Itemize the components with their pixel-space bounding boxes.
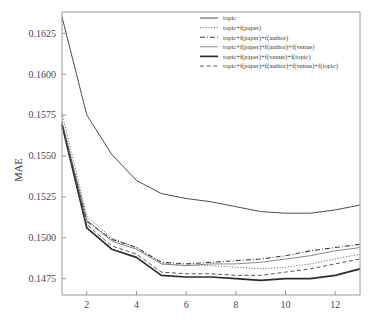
y-axis-title: MAE [13,158,24,181]
y-tick-label: 0.1550 [29,150,57,161]
x-tick-label: 8 [233,299,238,310]
x-tick-label: 4 [134,299,139,310]
chart-figure: 0.14750.15000.15250.15500.15750.16000.16… [0,0,373,324]
legend-label-2: topic+f(paper) [223,24,261,32]
x-tick-label: 10 [281,299,291,310]
x-tick-label: 2 [84,299,89,310]
y-tick-label: 0.1625 [29,28,57,39]
y-tick-label: 0.1475 [29,273,57,284]
x-tick-label: 6 [184,299,189,310]
x-tick-label: 12 [330,299,340,310]
mae-line-chart: 0.14750.15000.15250.15500.15750.16000.16… [0,0,373,324]
y-tick-label: 0.1525 [29,191,57,202]
legend-label-5: topic+f(paper)+f(venue)+f(topic) [223,53,311,61]
clipped-caption-strip [0,315,373,324]
legend-label-6: topic+f(paper)+f(author)+f(venue)+f(topi… [223,62,338,70]
legend-label-4: topic+f(paper)+f(author)+f(venue) [223,43,314,51]
y-tick-label: 0.1500 [29,232,57,243]
legend-label-3: topic+f(paper)+f(author) [223,34,288,42]
series-line-5 [62,125,360,280]
y-tick-label: 0.1600 [29,69,57,80]
legend-label-1: topic [223,14,236,21]
y-tick-label: 0.1575 [29,109,57,120]
legend-box: topictopic+f(paper)topic+f(paper)+f(auth… [200,14,338,70]
